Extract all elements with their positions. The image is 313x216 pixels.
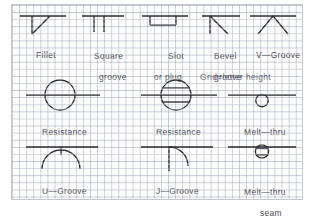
slot-or-plug-weld-symbol xyxy=(140,10,200,38)
label-melt-thru: Melt—thru xyxy=(228,118,286,147)
label-slot-or-plug-line2: or plug xyxy=(154,72,182,82)
v-groove-weld-symbol xyxy=(248,10,302,38)
j-groove-weld-symbol xyxy=(139,137,231,179)
label-melt-thru-line1: Melt—thru xyxy=(244,127,286,137)
label-square-groove-line1: Square xyxy=(94,51,123,61)
resistance-spot-weld-symbol xyxy=(24,75,116,115)
grid-scale-note-text: Grid=letter height xyxy=(200,72,271,82)
label-resistance-spot: Resistance xyxy=(26,118,87,147)
label-fillet: Fillet xyxy=(20,41,56,70)
label-resistance-spot-line1: Resistance xyxy=(42,127,87,137)
label-bevel-groove-line1: Bevel xyxy=(214,51,237,61)
u-groove-weld-symbol xyxy=(24,137,116,179)
label-v-groove-line1: V—Groove xyxy=(256,50,300,60)
fillet-weld-symbol xyxy=(18,10,74,38)
label-melt-thru-seam: Melt—thru seam xyxy=(228,177,286,207)
grid-scale-note: Grid=letter height xyxy=(184,62,271,92)
melt-thru-seam-weld-symbol xyxy=(224,137,302,179)
label-square-groove-line2: groove xyxy=(99,72,127,82)
label-square-groove: Square groove xyxy=(78,41,127,92)
label-u-groove-line1: U—Groove xyxy=(42,186,87,196)
bevel-groove-weld-symbol xyxy=(200,10,252,38)
label-fillet-line1: Fillet xyxy=(36,50,56,60)
graph-paper-plate: Fillet Square groove Slot or plug Bevel … xyxy=(12,5,302,199)
label-slot-or-plug: Slot or plug xyxy=(138,41,184,92)
label-melt-thru-seam-line1: Melt—thru xyxy=(244,187,286,197)
label-resistance-seam-line1: Resistance xyxy=(156,127,201,137)
label-resistance-seam: Resistance xyxy=(140,118,201,147)
label-j-groove: J—Groove xyxy=(140,177,199,206)
welding-symbol-chart-sheet: Fillet Square groove Slot or plug Bevel … xyxy=(0,0,313,207)
label-u-groove: U—Groove xyxy=(26,177,87,206)
label-j-groove-line1: J—Groove xyxy=(156,186,199,196)
label-slot-or-plug-line1: Slot xyxy=(168,51,184,61)
square-groove-weld-symbol xyxy=(80,10,136,38)
